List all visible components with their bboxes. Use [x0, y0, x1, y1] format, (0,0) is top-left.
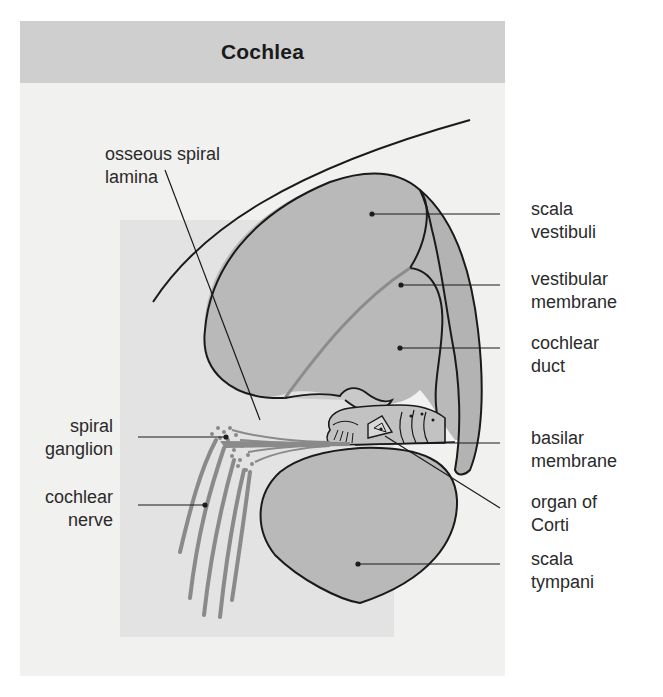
label-organ-of-corti: organ of Corti	[531, 491, 597, 537]
label-line: lamina	[105, 166, 220, 189]
label-line: membrane	[531, 291, 617, 314]
label-line: organ of	[531, 491, 597, 514]
label-vestibular-membrane: vestibular membrane	[531, 268, 617, 314]
label-line: cochlear	[20, 486, 113, 509]
label-spiral-ganglion: spiral ganglion	[20, 415, 113, 461]
label-basilar-membrane: basilar membrane	[531, 427, 617, 473]
label-line: vestibuli	[531, 221, 596, 244]
label-line: scala	[531, 198, 596, 221]
label-line: ganglion	[20, 438, 113, 461]
label-line: scala	[531, 548, 594, 571]
label-line: nerve	[20, 509, 113, 532]
label-scala-tympani: scala tympani	[531, 548, 594, 594]
label-osseous-spiral-lamina: osseous spiral lamina	[105, 143, 220, 189]
label-line: tympani	[531, 571, 594, 594]
scala-tympani-shape	[261, 448, 457, 603]
label-line: basilar	[531, 427, 617, 450]
label-line: spiral	[20, 415, 113, 438]
label-line: vestibular	[531, 268, 617, 291]
label-line: membrane	[531, 450, 617, 473]
label-scala-vestibuli: scala vestibuli	[531, 198, 596, 244]
label-cochlear-duct: cochlear duct	[531, 332, 599, 378]
label-line: osseous spiral	[105, 143, 220, 166]
label-line: Corti	[531, 514, 597, 537]
label-line: duct	[531, 355, 599, 378]
label-line: cochlear	[531, 332, 599, 355]
organ-of-corti-structure	[327, 405, 445, 445]
label-cochlear-nerve: cochlear nerve	[20, 486, 113, 532]
